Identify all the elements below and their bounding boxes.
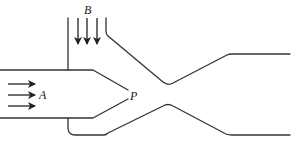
label-a: A — [38, 88, 47, 102]
primary-flow-arrows — [8, 84, 35, 106]
upper-outer-wall — [106, 18, 290, 84]
ejector-diagram: B A P — [0, 0, 297, 157]
nozzle-upper-wall — [0, 70, 128, 90]
lower-outer-wall — [68, 105, 290, 136]
nozzle-lower-wall — [0, 99, 128, 118]
label-b: B — [84, 3, 92, 17]
secondary-flow-arrows — [78, 18, 97, 44]
label-p: P — [129, 89, 138, 103]
